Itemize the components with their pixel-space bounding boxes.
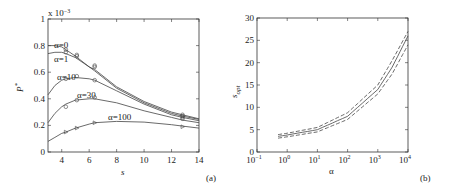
multiplier-label: x 10−3 — [48, 8, 70, 18]
series-label-alpha10: α=10 — [57, 72, 76, 82]
y-tick-label: 0.2 — [34, 120, 45, 130]
y-axis-label-a: P* — [13, 83, 25, 94]
y-tick-label: 10 — [245, 102, 255, 112]
x-tick-label: 10 — [140, 155, 150, 165]
series-curve — [48, 46, 199, 119]
curves-b — [278, 31, 408, 138]
axes-frame-b — [257, 18, 408, 152]
axes-frame-a — [48, 19, 199, 152]
y-axis-label-b: sopt — [229, 84, 242, 98]
y-tick-label: 25 — [245, 35, 255, 45]
y-tick-label: 0 — [41, 147, 46, 157]
series-curve — [48, 121, 199, 141]
series-label-alpha30: α=30 — [77, 90, 96, 100]
x-tick-label: 12 — [167, 155, 176, 165]
x-axis-label-a: s — [121, 167, 125, 177]
data-marker — [181, 125, 185, 129]
y-tick-label: 0.6 — [34, 67, 46, 77]
figure: 00.20.40.60.81 468101214 x 10−3 P* s (a)… — [0, 0, 454, 186]
x-tick-label: 101 — [308, 154, 320, 165]
y-tick-label: 20 — [245, 58, 255, 68]
x-tick-label: 104 — [399, 154, 411, 165]
series-label-alpha100: α=100 — [108, 112, 132, 122]
y-ticks-b: 051015202530 — [245, 13, 408, 157]
y-tick-label: 1 — [41, 14, 46, 24]
x-tick-label: 4 — [59, 155, 64, 165]
x-axis-label-b: α — [329, 166, 334, 176]
curves-a — [48, 46, 199, 142]
x-tick-label: 10−1 — [246, 154, 261, 165]
y-tick-label: 30 — [245, 13, 255, 23]
x-tick-label: 14 — [195, 155, 205, 165]
x-tick-label: 100 — [278, 154, 290, 165]
x-tick-label: 102 — [339, 154, 351, 165]
x-tick-label: 6 — [87, 155, 92, 165]
panel-b: 051015202530 10−1100101102103104 sopt α … — [229, 13, 431, 183]
x-tick-label: 103 — [369, 154, 381, 165]
series-curve — [48, 52, 199, 119]
x-tick-label: 8 — [114, 155, 119, 165]
x-ticks-b: 10−1100101102103104 — [246, 18, 411, 165]
series-label-alpha1: α=1 — [54, 54, 68, 64]
panel-a: 00.20.40.60.81 468101214 x 10−3 P* s (a)… — [13, 8, 216, 183]
panel-label-a: (a) — [206, 173, 216, 183]
series-label-alpha0: α=0 — [54, 40, 69, 50]
y-tick-label: 5 — [250, 125, 255, 135]
y-tick-label: 0.4 — [34, 94, 46, 104]
bound-curve-dashed — [278, 45, 408, 138]
data-marker — [64, 105, 68, 109]
y-tick-label: 15 — [245, 80, 255, 90]
bound-curve-dashed — [278, 31, 408, 134]
panel-label-b: (b) — [420, 173, 431, 183]
y-tick-label: 0.8 — [34, 41, 46, 51]
